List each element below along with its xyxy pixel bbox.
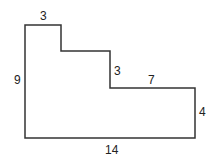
l-shaped-staircase-figure [0,0,217,162]
figure-outline [25,25,195,138]
label-left-height: 9 [14,74,21,86]
label-step-height: 3 [114,65,121,77]
label-bottom-width: 14 [105,144,118,156]
label-top-width: 3 [40,10,47,22]
label-right-top-width: 7 [148,74,155,86]
label-right-height: 4 [199,106,206,118]
